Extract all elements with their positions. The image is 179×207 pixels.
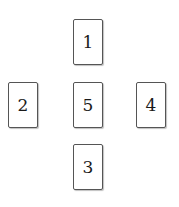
card-3-label: 3 [83, 157, 94, 177]
card-3: 3 [73, 144, 103, 190]
card-2-label: 2 [18, 95, 29, 115]
card-4-label: 4 [146, 95, 157, 115]
card-1: 1 [73, 19, 103, 65]
card-2: 2 [8, 82, 38, 128]
card-1-label: 1 [83, 32, 94, 52]
card-5-label: 5 [83, 95, 94, 115]
card-4: 4 [136, 82, 166, 128]
card-5: 5 [73, 82, 103, 128]
